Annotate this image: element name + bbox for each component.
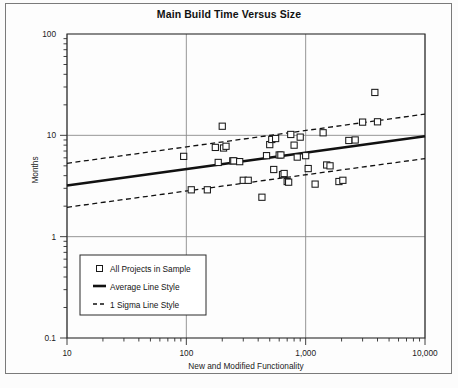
legend-label-projects: All Projects in Sample <box>110 264 191 274</box>
y-axis-tick-labels: 1001010.1 <box>42 29 56 343</box>
data-point-marker <box>263 153 269 159</box>
x-axis-tick-labels: 101001,00010,000 <box>62 348 438 358</box>
x-tick-label: 100 <box>179 348 193 358</box>
data-point-marker <box>212 144 218 150</box>
data-point-marker <box>305 165 311 171</box>
data-point-marker <box>245 177 251 183</box>
data-point-marker <box>320 130 326 136</box>
data-point-marker <box>374 119 380 125</box>
data-point-marker <box>286 179 292 185</box>
x-tick-label: 10,000 <box>412 348 438 358</box>
data-point-marker <box>352 137 358 143</box>
sigma-upper-line <box>67 114 425 163</box>
y-axis-label: Months <box>30 156 40 183</box>
scatter-points-group <box>181 89 381 200</box>
y-tick-label: 100 <box>42 29 56 39</box>
x-tick-label: 1,000 <box>295 348 316 358</box>
data-point-marker <box>278 152 284 158</box>
data-point-marker <box>181 153 187 159</box>
x-axis-label: New and Modified Functionality <box>188 361 304 371</box>
y-tick-label: 0.1 <box>44 333 56 343</box>
data-point-marker <box>273 135 279 141</box>
data-point-marker <box>215 159 221 165</box>
chart-plot-area: 101001,00010,000 1001010.1 New and Modif… <box>0 0 458 388</box>
data-point-marker <box>294 154 300 160</box>
y-tick-label: 1 <box>51 232 56 242</box>
data-point-marker <box>297 134 303 140</box>
chart-legend: All Projects in Sample Average Line Styl… <box>80 255 206 315</box>
data-point-marker <box>188 187 194 193</box>
data-point-marker <box>327 163 333 169</box>
data-point-marker <box>281 170 287 176</box>
data-point-marker <box>204 187 210 193</box>
legend-marker-open-square <box>97 266 103 272</box>
y-tick-label: 10 <box>47 130 57 140</box>
legend-label-sigma: 1 Sigma Line Style <box>110 300 180 310</box>
data-point-marker <box>231 158 237 164</box>
data-point-marker <box>340 177 346 183</box>
data-point-marker <box>259 194 265 200</box>
data-point-marker <box>271 166 277 172</box>
data-point-marker <box>288 131 294 137</box>
data-point-marker <box>291 142 297 148</box>
data-point-marker <box>312 181 318 187</box>
legend-label-average: Average Line Style <box>110 282 180 292</box>
data-point-marker <box>346 137 352 143</box>
data-point-marker <box>303 153 309 159</box>
data-point-marker <box>372 89 378 95</box>
data-point-marker <box>237 159 243 165</box>
data-point-marker <box>360 119 366 125</box>
data-point-marker <box>223 143 229 149</box>
data-point-marker <box>219 123 225 129</box>
chart-figure: Main Build Time Versus Size 101001,00010… <box>0 0 458 388</box>
x-tick-label: 10 <box>62 348 72 358</box>
